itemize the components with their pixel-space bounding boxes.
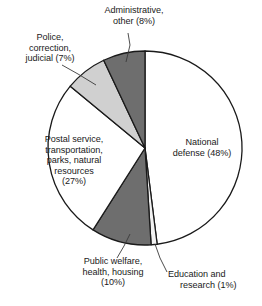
pie-label-public-welfare-line-2: health, housing <box>58 267 168 278</box>
pie-label-postal-line-4: resources <box>22 166 126 177</box>
pie-label-national-defense-line-2: defense (48%) <box>150 148 254 159</box>
pie-label-public-welfare: Public welfare, health, housing (10%) <box>58 256 168 288</box>
pie-label-administrative-other-line-1: Administrative, <box>78 5 190 16</box>
pie-label-postal-line-5: (27%) <box>22 176 126 187</box>
pie-label-administrative-other: Administrative, other (8%) <box>78 5 190 26</box>
pie-label-public-welfare-line-3: (10%) <box>58 277 168 288</box>
pie-label-education-line-2: research (1%) <box>168 280 262 291</box>
pie-label-administrative-other-line-2: other (8%) <box>78 16 190 27</box>
pie-chart-figure: Administrative, other (8%) Police, corre… <box>0 0 262 306</box>
pie-label-police-line-3: judicial (7%) <box>2 53 98 64</box>
pie-label-police-line-1: Police, <box>2 32 98 43</box>
pie-label-postal-line-2: transportation, <box>22 145 126 156</box>
pie-label-national-defense-line-1: National <box>150 137 254 148</box>
pie-label-national-defense: National defense (48%) <box>150 137 254 158</box>
pie-label-education-line-1: Education and <box>168 269 262 280</box>
pie-label-public-welfare-line-1: Public welfare, <box>58 256 168 267</box>
pie-label-postal-service: Postal service, transportation, parks, n… <box>22 134 126 187</box>
pie-label-police-correction-judicial: Police, correction, judicial (7%) <box>2 32 98 64</box>
pie-label-postal-line-3: parks, natural <box>22 155 126 166</box>
pie-label-postal-line-1: Postal service, <box>22 134 126 145</box>
pie-label-education-and-research: Education and research (1%) <box>168 269 262 290</box>
pie-label-police-line-2: correction, <box>2 43 98 54</box>
